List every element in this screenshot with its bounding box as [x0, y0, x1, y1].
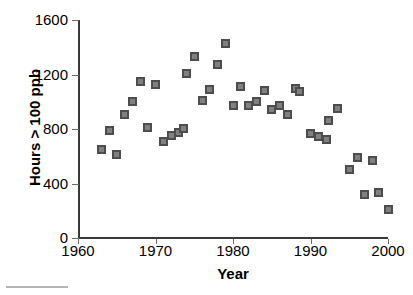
y-tick-mark: [72, 129, 79, 130]
data-point: [374, 188, 383, 197]
data-point: [322, 135, 331, 144]
x-tick-label: 1990: [281, 243, 341, 259]
data-point: [190, 52, 199, 61]
data-point: [128, 97, 137, 106]
data-point: [384, 205, 393, 214]
y-tick-label: 400: [0, 176, 68, 191]
data-point: [136, 77, 145, 86]
data-point: [179, 124, 188, 133]
data-point: [252, 97, 261, 106]
y-tick-label-text: 800: [4, 121, 68, 136]
data-point: [333, 104, 342, 113]
y-tick-label-text: 400: [4, 176, 68, 191]
y-tick-label-text: 1200: [4, 67, 68, 82]
data-point: [151, 80, 160, 89]
data-point: [353, 153, 362, 162]
data-point: [236, 82, 245, 91]
x-tick-label: 1960: [48, 243, 108, 259]
data-point: [368, 156, 377, 165]
scatter-chart: Hours > 100 ppb Year 040080012001600 196…: [0, 0, 413, 295]
data-point: [120, 110, 129, 119]
data-point: [182, 69, 191, 78]
x-tick-label: 2000: [358, 243, 413, 259]
data-point: [221, 39, 230, 48]
y-tick-label: 1200: [0, 67, 68, 82]
data-point: [112, 150, 121, 159]
x-tick-label: 1970: [126, 243, 186, 259]
data-point: [97, 145, 106, 154]
data-point: [295, 87, 304, 96]
data-point: [213, 60, 222, 69]
data-point: [283, 110, 292, 119]
y-tick-mark: [72, 75, 79, 76]
y-tick-label: 1600: [0, 12, 68, 27]
x-tick-label: 1980: [203, 243, 263, 259]
data-point: [205, 85, 214, 94]
data-point: [360, 190, 369, 199]
data-point: [260, 86, 269, 95]
data-point: [324, 116, 333, 125]
data-point: [275, 101, 284, 110]
y-tick-mark: [72, 20, 79, 21]
data-point: [143, 123, 152, 132]
x-axis-title: Year: [78, 265, 388, 282]
bottom-rule-divider: [6, 286, 68, 288]
data-point: [198, 96, 207, 105]
data-point: [229, 101, 238, 110]
y-tick-label-text: 1600: [4, 12, 68, 27]
y-tick-mark: [72, 184, 79, 185]
y-tick-label: 800: [0, 121, 68, 136]
data-point: [345, 165, 354, 174]
data-point: [105, 126, 114, 135]
